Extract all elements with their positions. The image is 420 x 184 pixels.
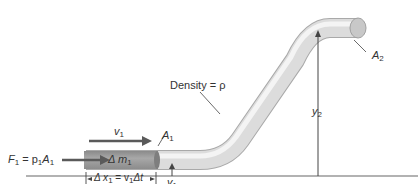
dx-arrow-left — [87, 177, 92, 181]
mass-label: Δ m1 — [108, 154, 132, 167]
dx-dt: Δt — [133, 172, 143, 183]
force-label: F1 = p1A1 — [8, 154, 54, 167]
velocity-arrowhead — [142, 136, 152, 146]
force-area-symbol: A — [42, 153, 49, 165]
area2-sub: 2 — [379, 54, 383, 63]
dx-arrow-right — [150, 177, 155, 181]
density-leader — [200, 92, 220, 114]
force-eq: = p — [19, 153, 38, 165]
fluid-element-face — [154, 151, 160, 169]
a2-leader — [354, 40, 366, 52]
y2-sub: 2 — [318, 110, 322, 119]
y1-sub: 1 — [173, 181, 177, 184]
area2-label: A2 — [372, 50, 384, 63]
area1-sub: 1 — [169, 134, 173, 143]
force-area-sub: 1 — [50, 158, 54, 167]
y2-label: y2 — [312, 106, 322, 119]
dx-label: Δ x1 = v1Δt — [94, 173, 143, 184]
bernoulli-pipe-diagram — [0, 0, 420, 184]
velocity-sub: 1 — [120, 130, 124, 139]
dx-eq: = v — [113, 172, 129, 183]
mass-symbol: Δ m — [108, 153, 127, 165]
force-symbol: F — [8, 153, 15, 165]
mass-sub: 1 — [127, 158, 131, 167]
velocity-label: v1 — [114, 126, 124, 139]
density-label: Density = ρ — [170, 80, 225, 91]
y1-label: y1 — [167, 177, 177, 184]
dx-symbol: Δ x — [94, 172, 108, 183]
area1-label: A1 — [162, 130, 174, 143]
pipe-opening-a2 — [350, 18, 366, 38]
